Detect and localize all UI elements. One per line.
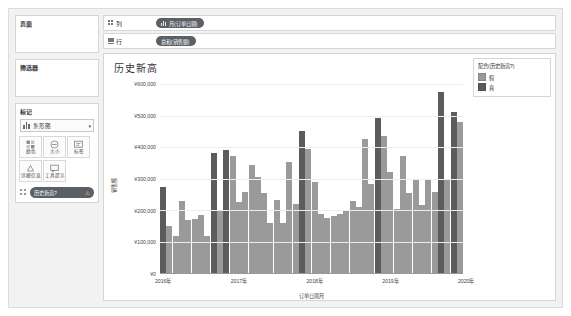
marks-card-title: 标记 <box>16 104 98 118</box>
color-icon <box>26 140 35 149</box>
bar[interactable] <box>261 193 267 273</box>
bar[interactable] <box>166 226 172 273</box>
bar[interactable] <box>413 180 419 273</box>
color-legend-title: 配合(历史新高?) <box>478 62 546 70</box>
bar[interactable] <box>255 177 261 273</box>
bar[interactable] <box>425 179 431 274</box>
y-tick-label: ¥300,000 <box>134 176 156 182</box>
gridline <box>160 116 463 117</box>
bar[interactable] <box>318 214 324 273</box>
bar[interactable] <box>211 153 217 273</box>
bar[interactable] <box>230 156 236 273</box>
bar[interactable] <box>406 193 412 273</box>
filters-card-title: 筛选器 <box>16 60 98 74</box>
bar[interactable] <box>419 205 425 273</box>
bar[interactable] <box>356 207 362 273</box>
x-tick-label: 2016年 <box>155 277 172 284</box>
marks-pill-label: 历史新高? <box>34 189 57 196</box>
y-tick-label: ¥200,000 <box>134 208 156 214</box>
tooltip-icon <box>50 164 59 173</box>
x-tick-label: 2019年 <box>382 277 399 284</box>
marks-size-button[interactable]: 大小 <box>43 136 66 158</box>
bar[interactable] <box>280 223 286 273</box>
rows-pill-label: 总和(销售额) <box>161 38 189 45</box>
mark-type-value: 条形图 <box>33 122 51 130</box>
bar[interactable] <box>179 201 185 273</box>
pages-card-title: 页面 <box>16 16 98 30</box>
marks-color-label: 颜色 <box>26 150 36 155</box>
bar[interactable] <box>192 219 198 273</box>
rows-shelf-label-group: 行 <box>108 37 134 46</box>
y-tick-label: ¥500,000 <box>134 113 156 119</box>
bar[interactable] <box>375 118 381 273</box>
bar[interactable] <box>267 223 273 273</box>
color-legend: 配合(历史新高?) 假 真 <box>473 58 551 97</box>
rows-icon <box>108 38 114 44</box>
y-tick-label: ¥600,000 <box>134 81 156 87</box>
y-axis-ticks: ¥0¥100,000¥200,000¥300,000¥400,000¥500,0… <box>112 84 156 274</box>
mark-type-select[interactable]: 条形图 ▾ <box>20 119 94 132</box>
y-tick-label: ¥400,000 <box>134 144 156 150</box>
legend-item-true[interactable]: 真 <box>478 83 546 91</box>
warning-icon: ⚠ <box>85 190 90 196</box>
bar[interactable] <box>299 131 305 273</box>
gridline <box>160 84 463 85</box>
bar-chart-icon <box>23 122 30 129</box>
bar[interactable] <box>438 92 444 273</box>
marks-tooltip-button[interactable]: 工具提示 <box>43 160 66 182</box>
legend-swatch-true <box>478 83 486 91</box>
legend-item-false[interactable]: 假 <box>478 73 546 81</box>
detail-icon <box>26 164 35 173</box>
marks-tooltip-label: 工具提示 <box>45 174 65 179</box>
x-axis-title: 订单日期月 <box>160 292 463 299</box>
bar[interactable] <box>400 156 406 273</box>
bar[interactable] <box>249 165 255 273</box>
chevron-down-icon: ▾ <box>88 123 91 129</box>
bar[interactable] <box>236 202 242 273</box>
gridline <box>160 242 463 243</box>
columns-pill-order-date-month[interactable]: 月(订单日期) <box>156 18 204 28</box>
bar[interactable] <box>312 182 318 273</box>
marks-detail-label: 详细信息 <box>21 174 41 179</box>
bar[interactable] <box>337 214 343 273</box>
tableau-workbook-window: 页面 筛选器 标记 条形图 ▾ 颜色 <box>8 8 563 308</box>
bar[interactable] <box>368 184 374 273</box>
x-tick-label: 2018年 <box>306 277 323 284</box>
bar[interactable] <box>324 218 330 273</box>
bar[interactable] <box>198 215 204 273</box>
bar[interactable] <box>331 216 337 273</box>
bar[interactable] <box>381 136 387 273</box>
columns-shelf[interactable]: 列 月(订单日期) <box>103 15 556 31</box>
bar[interactable] <box>362 139 368 273</box>
gridline <box>160 210 463 211</box>
bar[interactable] <box>451 112 457 273</box>
marks-card: 标记 条形图 ▾ 颜色 大小 <box>15 103 99 203</box>
bar[interactable] <box>185 220 191 273</box>
bar[interactable] <box>223 150 229 273</box>
y-tick-label: ¥100,000 <box>134 239 156 245</box>
rows-shelf[interactable]: 行 总和(销售额) <box>103 33 556 49</box>
marks-properties: 颜色 大小 标签 <box>19 136 95 184</box>
pages-card[interactable]: 页面 <box>15 15 99 53</box>
legend-label-false: 假 <box>489 74 494 81</box>
bar[interactable] <box>160 187 166 273</box>
detail-handle-icon <box>20 189 27 196</box>
bar[interactable] <box>457 122 463 273</box>
rows-pill-sum-sales[interactable]: 总和(销售额) <box>156 36 196 46</box>
marks-pill-record-high[interactable]: 历史新高? ⚠ <box>30 187 94 198</box>
filters-card[interactable]: 筛选器 <box>15 59 99 97</box>
legend-swatch-false <box>478 73 486 81</box>
bar[interactable] <box>242 192 248 273</box>
bar[interactable] <box>350 201 356 273</box>
gridline <box>160 179 463 180</box>
bar[interactable] <box>444 179 450 274</box>
marks-detail-button[interactable]: 详细信息 <box>19 160 42 182</box>
label-icon <box>74 140 83 149</box>
bar[interactable] <box>432 192 438 273</box>
gridline <box>160 147 463 148</box>
marks-detail-pill-row: 历史新高? ⚠ <box>20 187 94 198</box>
marks-label-button[interactable]: 标签 <box>67 136 90 158</box>
bar[interactable] <box>387 172 393 273</box>
marks-color-button[interactable]: 颜色 <box>19 136 42 158</box>
bar[interactable] <box>293 204 299 273</box>
